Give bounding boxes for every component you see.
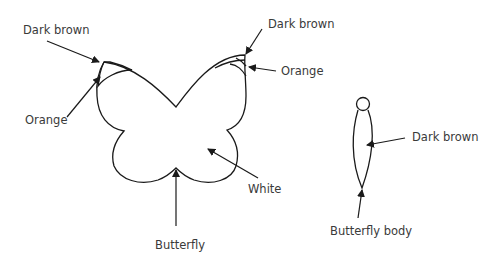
butterfly-diagram: Dark brown Orange Dark brown Orange Whit… [0, 0, 496, 259]
label-dark-brown-left: Dark brown [23, 25, 89, 37]
label-dark-brown-body: Dark brown [412, 132, 478, 144]
caption-butterfly-body: Butterfly body [330, 226, 412, 238]
butterfly-outline [97, 55, 246, 182]
butterfly-body-outline [353, 98, 372, 189]
label-orange-left: Orange [25, 115, 68, 127]
caption-butterfly: Butterfly [155, 240, 205, 252]
label-dark-brown-right: Dark brown [268, 19, 334, 31]
label-orange-right: Orange [281, 66, 324, 78]
label-white: White [248, 184, 281, 196]
